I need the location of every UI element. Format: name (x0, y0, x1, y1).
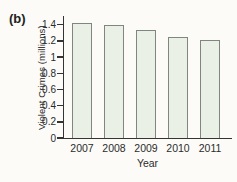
y-tick-label: 0.2 (16, 116, 56, 127)
y-tick-mark (57, 121, 63, 122)
x-tick-label: 2011 (193, 142, 227, 154)
x-tick-label: 2007 (65, 142, 99, 154)
y-tick-label: 0.8 (16, 68, 56, 79)
bar-2010 (168, 37, 188, 138)
y-tick-label: 0.4 (16, 100, 56, 111)
x-tick-label: 2009 (129, 142, 163, 154)
x-tick-label: 2010 (161, 142, 195, 154)
y-tick-mark (57, 73, 63, 74)
bar-2008 (104, 25, 124, 138)
y-tick-mark (57, 105, 63, 106)
chart-plot-area: 00.20.40.60.811.21.4 2007200820092010201… (63, 16, 232, 139)
y-tick-mark (57, 40, 63, 41)
y-tick-mark (57, 89, 63, 90)
bar-2007 (72, 23, 92, 138)
bar-2011 (200, 40, 220, 138)
figure: (b) Violent Crimes (millions) 00.20.40.6… (0, 0, 237, 182)
y-tick-mark (57, 137, 63, 138)
y-tick-label: 0.6 (16, 84, 56, 95)
x-axis-title: Year (63, 157, 232, 169)
y-tick-label: 0 (16, 133, 56, 144)
y-tick-label: 1.4 (16, 19, 56, 30)
y-tick-label: 1 (16, 52, 56, 63)
y-tick-label: 1.2 (16, 35, 56, 46)
y-tick-mark (57, 56, 63, 57)
bar-2009 (136, 30, 156, 138)
y-tick-mark (57, 24, 63, 25)
x-tick-label: 2008 (97, 142, 131, 154)
